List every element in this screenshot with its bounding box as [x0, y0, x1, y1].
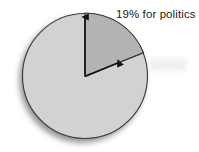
pie-chart-graphic [0, 0, 199, 152]
slice-annotation-label: 19% for politics [116, 8, 196, 21]
pie-chart-figure: 19% for politics [0, 0, 199, 152]
